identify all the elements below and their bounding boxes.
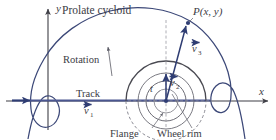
v2-label-group: v 2	[170, 77, 181, 92]
v2-subscript: 2	[176, 83, 180, 91]
prolate-cycloid-label: Prolate cycloid	[62, 4, 132, 17]
v3-label: v	[192, 43, 197, 54]
v2-label: v	[170, 77, 175, 88]
track-label: Track	[76, 88, 101, 99]
angle-t-arc	[154, 91, 160, 101]
labels-group: Prolate cycloid P(x, y) Rotation Track F…	[55, 2, 264, 139]
wheel-rim-label: Wheel rim	[157, 128, 202, 139]
point-p-label: P(x, y)	[192, 5, 223, 18]
v3-label-group: v 3	[192, 43, 203, 58]
rotation-arrow	[108, 47, 112, 76]
flange-label: Flange	[110, 128, 139, 139]
v3-subscript: 3	[198, 49, 202, 57]
construction-lines-group	[128, 20, 232, 130]
axes-group	[6, 9, 268, 130]
angle-arc-group	[154, 91, 160, 101]
v1-label: v	[84, 105, 89, 116]
wheel-rim-leader-line	[172, 94, 192, 128]
rotation-indicator-group	[108, 47, 112, 76]
x-axis-label: x	[258, 85, 264, 97]
prolate-cycloid-diagram: Prolate cycloid P(x, y) Rotation Track F…	[0, 0, 276, 140]
v1-label-group: v 1	[84, 105, 95, 120]
rotation-label: Rotation	[63, 54, 100, 65]
angle-t-label: t	[150, 83, 153, 94]
y-axis-label: y	[55, 2, 61, 14]
wheel-centre-dot	[164, 99, 168, 103]
figure-container: Prolate cycloid P(x, y) Rotation Track F…	[0, 0, 276, 140]
v1-subscript: 1	[90, 111, 94, 119]
